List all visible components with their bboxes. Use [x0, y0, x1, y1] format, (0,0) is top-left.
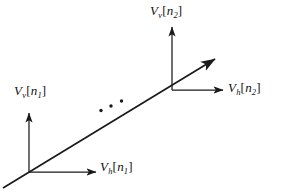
label-v-n1-close: ] [42, 83, 47, 98]
label-v-n1: Vv[n1] [14, 84, 46, 97]
label-h-n2-close: ] [256, 80, 261, 95]
label-h-n1: Vh[n1] [100, 160, 133, 173]
ellipsis-dot [99, 109, 102, 112]
ellipsis-dot [109, 104, 112, 107]
label-h-n1-index-sub: 1 [124, 166, 128, 176]
label-v-n2: Vv[n2] [150, 4, 182, 17]
label-v-n2-index-sub: 2 [173, 10, 177, 20]
label-v-n1-base: V [14, 83, 22, 98]
label-v-n1-index-sub: 1 [37, 90, 41, 100]
label-h-n2-index: n [245, 80, 252, 95]
label-v-n2-sub: v [158, 10, 162, 20]
ellipsis-dot [120, 99, 123, 102]
label-h-n2-sub: h [236, 87, 240, 97]
vector-diagram: Vv[n2] Vh[n2] Vv[n1] Vh[n1] [0, 0, 291, 192]
label-h-n1-index: n [117, 159, 124, 174]
label-h-n2: Vh[n2] [228, 81, 261, 94]
diagonal-ellipsis [99, 99, 123, 112]
label-h-n1-base: V [100, 159, 108, 174]
label-h-n1-sub: h [108, 166, 112, 176]
label-v-n1-sub: v [22, 90, 26, 100]
label-h-n2-base: V [228, 80, 236, 95]
label-v-n2-base: V [150, 3, 158, 18]
label-v-n2-close: ] [178, 3, 183, 18]
label-h-n2-index-sub: 2 [252, 87, 256, 97]
label-h-n1-close: ] [128, 159, 133, 174]
